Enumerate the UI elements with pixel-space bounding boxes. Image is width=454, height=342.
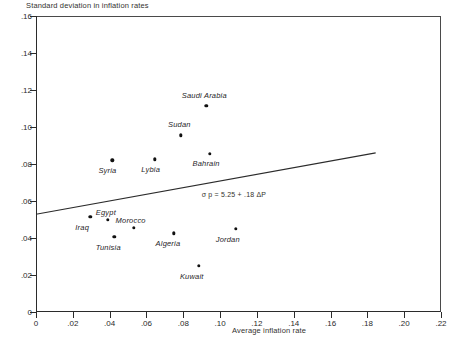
x-axis-tick [183,312,184,318]
plot-area: 0.02.04.06.08.10.12.14.160.02.04.06.08.1… [36,16,441,312]
y-axis-tick-label: .02 [21,271,32,280]
y-axis-tick-label: 0 [28,308,32,317]
x-axis-tick [367,312,368,318]
y-axis-tick-label: .06 [21,197,32,206]
y-axis-tick-label: .10 [21,123,32,132]
data-point-label: Tunisia [96,243,121,252]
data-point-label: Jordan [216,235,240,244]
data-point-label: Algeria [156,239,181,248]
x-axis-tick-label: .16 [325,319,336,328]
x-axis-tick [331,312,332,318]
x-axis-tick-label: .18 [362,319,373,328]
data-point-label: Egypt [96,208,116,217]
y-axis-tick-label: .08 [21,160,32,169]
x-axis-tick [220,312,221,318]
data-point-label: Lybia [141,165,160,174]
x-axis-tick [110,312,111,318]
x-axis-tick [404,312,405,318]
inflation-scatter-figure: Standard deviation in inflation rates Av… [0,0,454,342]
data-point-label: Syria [98,166,116,175]
x-axis-tick [146,312,147,318]
y-axis-title: Standard deviation in inflation rates [26,1,149,10]
y-axis-tick-label: .16 [21,12,32,21]
x-axis-tick-label: .14 [288,319,299,328]
y-axis-tick-label: .14 [21,49,32,58]
x-axis-tick [441,312,442,318]
y-axis-tick-label: .04 [21,234,32,243]
x-axis-tick [294,312,295,318]
x-axis-tick-label: .22 [435,319,446,328]
x-axis-tick-label: .08 [178,319,189,328]
x-axis-tick [36,312,37,318]
data-point-label: Saudi Arabia [182,91,227,100]
x-axis-tick-label: 0 [34,319,38,328]
x-axis-tick-label: .02 [67,319,78,328]
x-axis-tick-label: .10 [215,319,226,328]
x-axis-tick-label: .20 [399,319,410,328]
x-axis-tick [257,312,258,318]
data-point-label: Bahrain [192,159,219,168]
data-point-label: Kuwait [180,272,204,281]
regression-line-svg [36,16,441,312]
x-axis-tick-label: .06 [141,319,152,328]
x-axis-tick-label: .04 [104,319,115,328]
data-point-label: Morocco [116,216,146,225]
data-point-label: Sudan [168,120,191,129]
x-axis-tick-label: .12 [251,319,262,328]
y-axis-tick-label: .12 [21,86,32,95]
regression-equation-label: σ p = 5.25 + .18 ΔP [202,191,267,198]
x-axis-tick [73,312,74,318]
data-point-label: Iraq [75,223,89,232]
